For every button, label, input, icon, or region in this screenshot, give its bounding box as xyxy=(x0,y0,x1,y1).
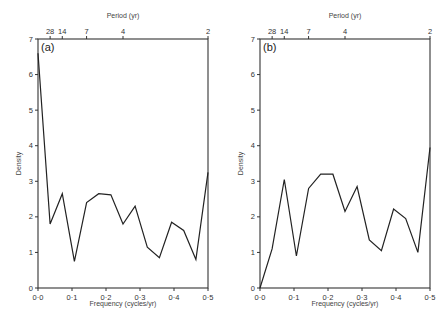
y-tick-label: 4 xyxy=(251,141,255,150)
y-tick-label: 3 xyxy=(251,177,255,186)
x-tick-label: 0·4 xyxy=(169,293,180,302)
y-tick-label: 4 xyxy=(29,141,33,150)
y-tick-label: 1 xyxy=(29,248,33,257)
y-tick-label: 7 xyxy=(251,35,255,44)
y-tick-label: 5 xyxy=(251,106,255,115)
panel-label: (b) xyxy=(263,41,276,53)
period-tick-label: 7 xyxy=(85,27,89,36)
panel-label: (a) xyxy=(41,41,54,53)
top-axis-label: Period (yr) xyxy=(329,12,362,20)
period-tick-label: 4 xyxy=(121,27,125,36)
y-tick-label: 6 xyxy=(251,70,255,79)
x-axis-label: Frequency (cycles/yr) xyxy=(90,300,157,308)
y-tick-label: 6 xyxy=(29,70,33,79)
y-tick-label: 5 xyxy=(29,106,33,115)
plot-frame xyxy=(260,39,430,288)
x-tick-label: 0·5 xyxy=(425,293,436,302)
x-tick-label: 0·0 xyxy=(33,293,44,302)
y-axis-label: Density xyxy=(237,151,245,175)
period-tick-label: 14 xyxy=(58,27,66,36)
x-axis-label: Frequency (cycles/yr) xyxy=(312,300,379,308)
top-axis-label: Period (yr) xyxy=(107,12,140,20)
y-tick-label: 0 xyxy=(29,284,33,293)
y-tick-label: 0 xyxy=(251,284,255,293)
panel-a: 012345670·00·10·20·30·40·52814742Frequen… xyxy=(15,12,213,308)
x-tick-label: 0·4 xyxy=(391,293,402,302)
panel-b: 012345670·00·10·20·30·40·52814742Frequen… xyxy=(237,12,435,308)
period-tick-label: 28 xyxy=(268,27,276,36)
y-tick-label: 3 xyxy=(29,177,33,186)
x-tick-label: 0·1 xyxy=(67,293,78,302)
y-tick-label: 7 xyxy=(29,35,33,44)
x-tick-label: 0·5 xyxy=(203,293,214,302)
period-tick-label: 4 xyxy=(343,27,347,36)
spectral-density-figure: 012345670·00·10·20·30·40·52814742Frequen… xyxy=(0,0,448,325)
period-tick-label: 7 xyxy=(307,27,311,36)
y-tick-label: 1 xyxy=(251,248,255,257)
period-tick-label: 14 xyxy=(280,27,288,36)
y-tick-label: 2 xyxy=(251,212,255,221)
period-tick-label: 28 xyxy=(46,27,54,36)
period-tick-label: 2 xyxy=(206,27,210,36)
density-line xyxy=(260,148,430,289)
y-tick-label: 2 xyxy=(29,212,33,221)
y-axis-label: Density xyxy=(15,151,23,175)
x-tick-label: 0·0 xyxy=(255,293,266,302)
plot-frame xyxy=(38,39,208,288)
x-tick-label: 0·1 xyxy=(289,293,300,302)
density-line xyxy=(38,53,208,261)
period-tick-label: 2 xyxy=(428,27,432,36)
